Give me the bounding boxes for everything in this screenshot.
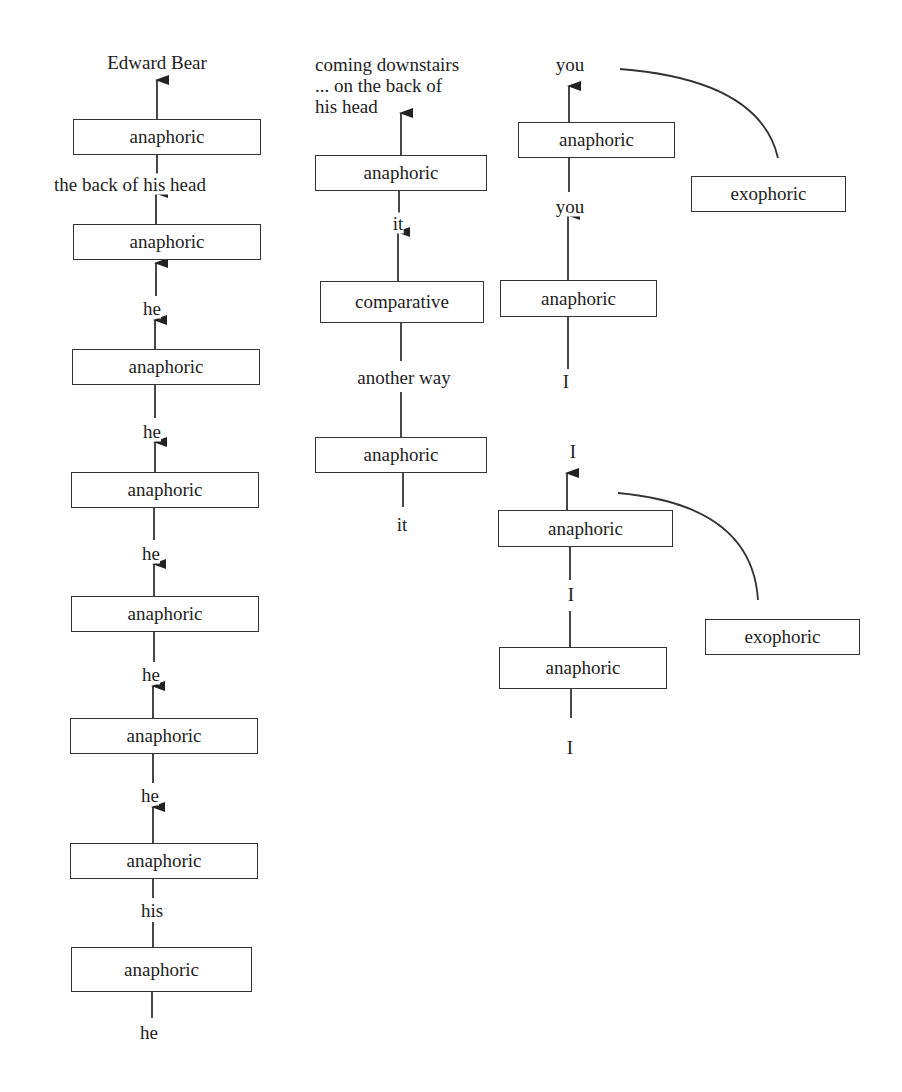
referent-label: I — [563, 371, 569, 392]
referent-label: Edward Bear — [107, 52, 207, 73]
exophoric-box: exophoric — [705, 619, 860, 655]
anaphoric-box: anaphoric — [500, 280, 657, 317]
referent-label: he — [142, 543, 160, 564]
anaphoric-box: anaphoric — [518, 122, 675, 158]
referent-label: I — [567, 737, 573, 758]
anaphoric-box: anaphoric — [498, 510, 673, 547]
anaphoric-box: anaphoric — [71, 947, 252, 992]
anaphoric-box: anaphoric — [72, 349, 260, 385]
referent-label: his — [141, 900, 163, 921]
anaphoric-box: anaphoric — [315, 437, 487, 473]
referent-label: another way — [357, 367, 450, 388]
anaphoric-box: anaphoric — [71, 596, 259, 632]
anaphoric-box: anaphoric — [70, 843, 258, 879]
referent-label: he — [141, 785, 159, 806]
referent-label: you — [556, 196, 585, 217]
anaphoric-box: anaphoric — [71, 472, 259, 508]
referent-label: the back of his head — [54, 174, 206, 195]
referent-label: he — [143, 298, 161, 319]
comparative-box: comparative — [320, 281, 484, 323]
referent-label: he — [140, 1022, 158, 1043]
referent-label: I — [568, 584, 574, 605]
referent-label: I — [570, 441, 576, 462]
referent-label: it — [393, 213, 404, 234]
referent-label: it — [397, 514, 408, 535]
referent-label: he — [142, 664, 160, 685]
anaphoric-box: anaphoric — [73, 224, 261, 260]
anaphoric-box: anaphoric — [70, 718, 258, 754]
referent-label: he — [143, 421, 161, 442]
anaphoric-box: anaphoric — [499, 647, 667, 689]
referent-label: coming downstairs ... on the back of his… — [315, 53, 459, 118]
exophoric-box: exophoric — [691, 176, 846, 212]
referent-label: you — [556, 54, 585, 75]
anaphoric-box: anaphoric — [315, 155, 487, 191]
anaphoric-box: anaphoric — [73, 119, 261, 155]
